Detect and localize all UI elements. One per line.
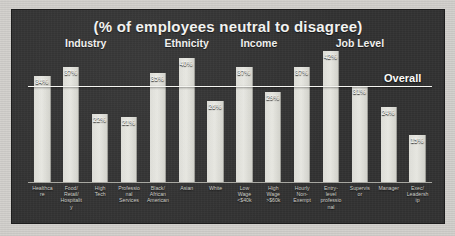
x-axis-line [28, 182, 432, 183]
bar-value-label: 35% [151, 75, 164, 82]
bar-fill [352, 86, 368, 182]
overall-reference-line [28, 86, 432, 88]
bar-fill [63, 67, 79, 182]
bar-entry-level-professional[interactable]: 42% [323, 51, 339, 182]
chart-panel: (% of employees neutral to disagree) Ind… [12, 10, 444, 223]
bar-fill [381, 107, 397, 182]
bar-fill [34, 76, 50, 182]
bar-manager[interactable]: 24% [381, 107, 397, 182]
category-label-professional-services: ProfessionalServices [118, 185, 140, 204]
bar-value-label: 24% [382, 109, 395, 116]
bar-fill [265, 92, 281, 182]
bar-value-label: 42% [324, 53, 337, 60]
bar-fill [207, 101, 223, 182]
bar-value-label: 31% [353, 88, 366, 95]
bar-fill [92, 114, 108, 182]
bar-black-african-american[interactable]: 35% [150, 73, 166, 182]
bar-value-label: 29% [266, 94, 279, 101]
bar-value-label: 22% [93, 116, 106, 123]
bar-value-label: 37% [295, 69, 308, 76]
category-label-high-wage-60k: High Wage>$60k [262, 185, 284, 204]
bar-value-label: 40% [180, 60, 193, 67]
bar-exec-leadership[interactable]: 15% [409, 135, 425, 182]
category-label-black-african-american: Black/AfricanAmerican [147, 185, 169, 204]
bar-asian[interactable]: 40% [179, 58, 195, 182]
bar-food-retail-hospitality[interactable]: 37% [63, 67, 79, 182]
category-label-hourly-non-exempt: HourlyNon-Exempt [291, 185, 313, 204]
bar-value-label: 37% [64, 69, 77, 76]
plot-area: 34%37%22%21%35%40%26%37%29%37%42%31%24%1… [28, 42, 432, 182]
category-label-asian: Asian [176, 185, 198, 191]
bar-white[interactable]: 26% [207, 101, 223, 182]
bar-high-tech[interactable]: 22% [92, 114, 108, 182]
overall-reference-label: Overall [384, 72, 421, 84]
bar-fill [150, 73, 166, 182]
category-label-food-retail-hospitality: Food/Retail/Hospitality [60, 185, 82, 210]
bar-fill [323, 51, 339, 182]
chart-title: (% of employees neutral to disagree) [12, 18, 444, 35]
page-canvas: (% of employees neutral to disagree) Ind… [0, 0, 455, 236]
bar-value-label: 15% [410, 137, 423, 144]
category-label-white: White [204, 185, 226, 191]
category-label-healthcare: Healthcare [31, 185, 53, 197]
bar-value-label: 34% [35, 78, 48, 85]
bar-fill [294, 67, 310, 182]
bar-low-wage-40k[interactable]: 37% [236, 67, 252, 182]
category-label-low-wage-40k: Low Wage<$40k [233, 185, 255, 204]
bar-professional-services[interactable]: 21% [121, 117, 137, 182]
bar-fill [121, 117, 137, 182]
bar-fill [179, 58, 195, 182]
bar-hourly-non-exempt[interactable]: 37% [294, 67, 310, 182]
bar-high-wage-60k[interactable]: 29% [265, 92, 281, 182]
bar-value-label: 21% [122, 119, 135, 126]
bar-supervisor[interactable]: 31% [352, 86, 368, 182]
category-label-high-tech: HighTech [89, 185, 111, 197]
bar-value-label: 37% [237, 69, 250, 76]
bar-value-label: 26% [208, 103, 221, 110]
category-label-supervisor: Supervisor [349, 185, 371, 197]
bar-healthcare[interactable]: 34% [34, 76, 50, 182]
category-label-manager: Manager [378, 185, 400, 191]
category-label-entry-level-professional: Entry-levelprofessional [320, 185, 342, 210]
bar-fill [236, 67, 252, 182]
category-label-exec-leadership: Exec/Leadership [406, 185, 428, 204]
